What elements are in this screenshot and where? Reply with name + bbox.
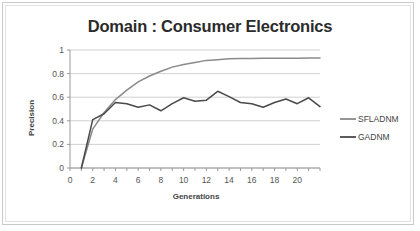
x-tick-label: 12: [202, 175, 212, 185]
x-tick-label: 16: [247, 175, 257, 185]
legend-label: GADNM: [358, 132, 390, 142]
x-tick-label: 6: [136, 175, 141, 185]
y-tick-labels: 00.20.40.60.81: [52, 45, 64, 173]
x-tick-label: 2: [90, 175, 95, 185]
x-axis-label: Generations: [173, 192, 220, 201]
x-tick-label: 10: [179, 175, 189, 185]
x-axis: [70, 168, 320, 171]
x-tick-label: 20: [293, 175, 303, 185]
x-tick-label: 0: [68, 175, 73, 185]
chart-container: Domain : Consumer Electronics 00.20.40.6…: [0, 0, 420, 231]
chart-legend: SFLADNMGADNM: [340, 114, 399, 142]
y-axis: [67, 50, 70, 168]
y-tick-label: 1: [59, 45, 64, 55]
x-tick-labels: 02468101214161820: [68, 175, 303, 185]
y-tick-label: 0: [59, 163, 64, 173]
x-tick-label: 14: [224, 175, 234, 185]
y-tick-label: 0.4: [52, 116, 64, 126]
series-line-sfladnm: [81, 58, 320, 168]
y-axis-label: Precision: [27, 100, 36, 136]
y-tick-label: 0.8: [52, 69, 64, 79]
y-tick-label: 0.6: [52, 92, 64, 102]
chart-plot-area: 00.20.40.60.81 02468101214161820 SFLADNM…: [0, 0, 420, 231]
series-line-gadnm: [81, 91, 320, 168]
data-series: [81, 58, 320, 168]
legend-label: SFLADNM: [358, 114, 399, 124]
y-tick-label: 0.2: [52, 139, 64, 149]
x-tick-label: 18: [270, 175, 280, 185]
x-tick-label: 4: [113, 175, 118, 185]
x-tick-label: 8: [159, 175, 164, 185]
